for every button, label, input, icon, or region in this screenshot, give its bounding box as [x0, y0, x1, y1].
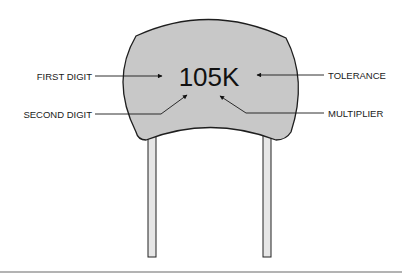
- tolerance-label: TOLERANCE: [328, 70, 386, 81]
- left-lead: [148, 134, 156, 257]
- capacitor-diagram: 105K FIRST DIGIT SECOND DIGIT TOLERANCE …: [0, 0, 402, 274]
- right-lead: [263, 134, 271, 257]
- capacitor-leads: [148, 134, 271, 257]
- capacitor-code: 105K: [179, 62, 240, 92]
- multiplier-label: MULTIPLIER: [328, 108, 383, 119]
- first-digit-label: FIRST DIGIT: [37, 71, 92, 82]
- second-digit-label: SECOND DIGIT: [23, 109, 92, 120]
